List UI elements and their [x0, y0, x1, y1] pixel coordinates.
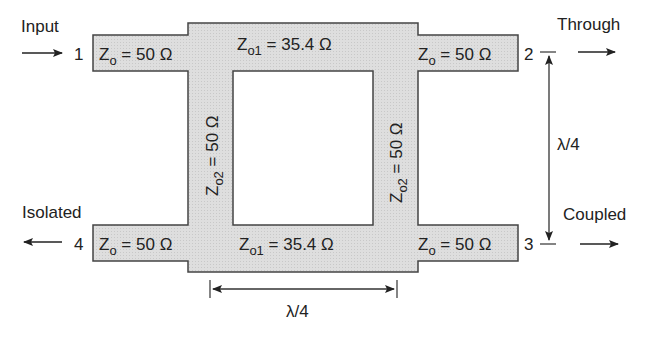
port-4-number: 4 [74, 235, 83, 254]
coupler-diagram: Zo = 50 Ω Zo = 50 Ω Zo = 50 Ω Zo = 50 Ω … [0, 0, 651, 337]
port-input-label: Input [21, 17, 59, 36]
port-isolated-label: Isolated [22, 203, 82, 222]
port-coupled-label: Coupled [563, 205, 626, 224]
port-3-number: 3 [524, 235, 533, 254]
vertical-dimension-label: λ/4 [557, 135, 580, 154]
horizontal-dimension-label: λ/4 [286, 302, 309, 321]
port-through-label: Through [557, 15, 620, 34]
port-1-number: 1 [74, 45, 83, 64]
port-2-number: 2 [524, 45, 533, 64]
